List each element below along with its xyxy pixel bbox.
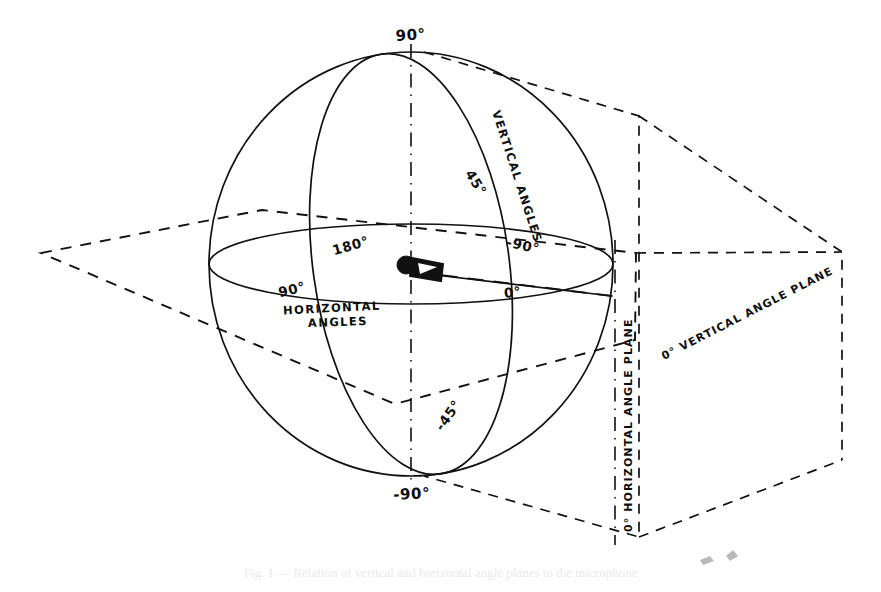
scan-speck-2 [726, 550, 738, 561]
scan-artifacts [700, 550, 738, 565]
label-vertical-45: 45° [462, 167, 490, 199]
label-bottom-pole: -90° [393, 484, 431, 504]
figure-root: 90° -90° VERTICAL ANGLES 45° -45° 180° 9… [0, 0, 881, 592]
vertical-plane-mid-edge [636, 252, 842, 253]
label-horizontal-angle-plane: 0° HORIZONTAL ANGLE PLANE [622, 318, 635, 532]
label-top-pole: 90° [395, 25, 426, 45]
label-horizontal-0: 0° [503, 283, 522, 301]
label-horizontal-angles-line2: ANGLES [308, 314, 368, 330]
label-vertical-minus-45: -45° [432, 397, 464, 434]
figure-caption: Fig. 1 — Relation of vertical and horizo… [0, 565, 881, 581]
scan-speck-1 [700, 556, 714, 565]
spherical-coordinate-diagram: 90° -90° VERTICAL ANGLES 45° -45° 180° 9… [0, 0, 881, 592]
label-horizontal-90: 90° [277, 278, 307, 300]
label-horizontal-180: 180° [330, 232, 370, 258]
microphone-icon [397, 256, 443, 281]
label-vertical-angle-plane: 0° VERTICAL ANGLE PLANE [659, 265, 835, 363]
vertical-plane-bottom-edge [639, 460, 842, 537]
label-vertical-angles: VERTICAL ANGLES [489, 109, 545, 245]
